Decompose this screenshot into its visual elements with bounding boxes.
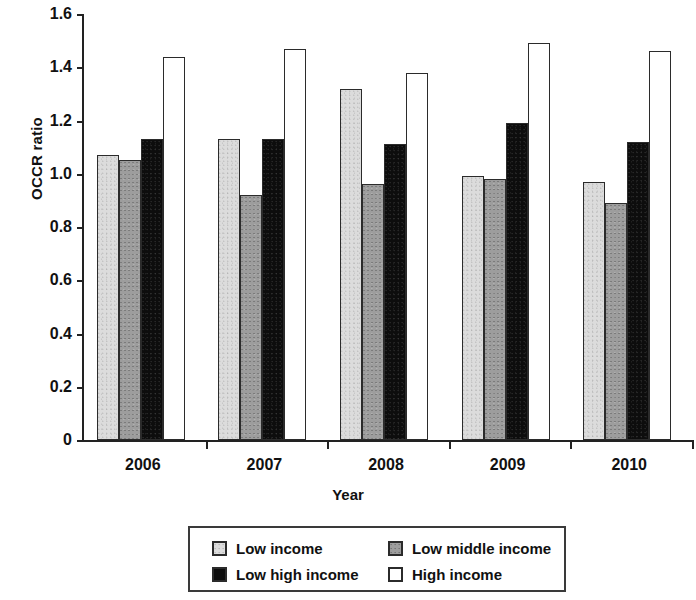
x-axis-tick <box>327 440 329 449</box>
y-axis-tick-label: 0.2 <box>26 379 72 395</box>
y-axis-tick <box>77 14 84 16</box>
legend-row: Low high income High income <box>212 561 564 587</box>
y-axis-tick-label: 0.6 <box>26 272 72 288</box>
bar <box>484 179 506 440</box>
bar <box>119 160 141 440</box>
x-axis-tick-label: 2009 <box>463 456 553 474</box>
legend-item-low-income[interactable]: Low income <box>212 540 388 557</box>
x-axis-tick-label: 2008 <box>341 456 431 474</box>
bar <box>583 182 605 440</box>
y-axis-tick <box>77 334 84 336</box>
y-axis-tick <box>77 67 84 69</box>
legend-swatch-icon <box>388 541 403 556</box>
legend-swatch-icon <box>212 567 227 582</box>
bar <box>340 89 362 440</box>
x-axis-tick <box>206 440 208 449</box>
legend-row: Low income Low middle income <box>212 535 564 561</box>
bar <box>362 184 384 440</box>
bar <box>141 139 163 440</box>
y-axis-tick-label: 1.4 <box>26 59 72 75</box>
plot-area <box>82 14 692 442</box>
bar <box>218 139 240 440</box>
x-axis-tick <box>692 440 694 449</box>
legend-item-high-income[interactable]: High income <box>388 566 564 583</box>
x-axis-tick-label: 2006 <box>98 456 188 474</box>
y-axis-tick-label: 1.6 <box>26 6 72 22</box>
bar <box>262 139 284 440</box>
bar <box>506 123 528 440</box>
y-axis-tick <box>77 227 84 229</box>
chart-legend: Low income Low middle income Low high in… <box>188 526 566 592</box>
y-axis-tick-label: 1.2 <box>26 113 72 129</box>
y-axis-tick-label: 0.4 <box>26 326 72 342</box>
y-axis-tick-label: 0.8 <box>26 219 72 235</box>
bar <box>97 155 119 440</box>
y-axis-tick <box>77 174 84 176</box>
bar <box>605 203 627 440</box>
bar <box>627 142 649 440</box>
y-axis-tick-labels: 1.61.41.21.00.80.60.40.20 <box>16 0 72 460</box>
bar-chart: OCCR ratio 1.61.41.21.00.80.60.40.20 200… <box>0 0 696 600</box>
legend-swatch-icon <box>388 567 403 582</box>
legend-label: High income <box>412 566 502 583</box>
x-axis-title: Year <box>0 486 696 503</box>
legend-item-low-middle-income[interactable]: Low middle income <box>388 540 564 557</box>
legend-item-low-high-income[interactable]: Low high income <box>212 566 388 583</box>
bar <box>163 57 185 440</box>
bar <box>462 176 484 440</box>
x-axis-tick <box>449 440 451 449</box>
y-axis-tick <box>77 121 84 123</box>
legend-label: Low income <box>236 540 323 557</box>
x-axis-tick <box>570 440 572 449</box>
y-axis-tick <box>77 280 84 282</box>
bar <box>406 73 428 440</box>
bar <box>528 43 550 440</box>
x-axis-tick-label: 2010 <box>584 456 674 474</box>
y-axis-tick <box>77 440 84 442</box>
x-axis-tick-label: 2007 <box>219 456 309 474</box>
bar <box>384 144 406 440</box>
legend-label: Low middle income <box>412 540 551 557</box>
y-axis-tick <box>77 387 84 389</box>
legend-label: Low high income <box>236 566 359 583</box>
bar <box>649 51 671 440</box>
bar <box>240 195 262 440</box>
y-axis-tick-label: 0 <box>26 432 72 448</box>
legend-swatch-icon <box>212 541 227 556</box>
bar <box>284 49 306 440</box>
y-axis-tick-label: 1.0 <box>26 166 72 182</box>
